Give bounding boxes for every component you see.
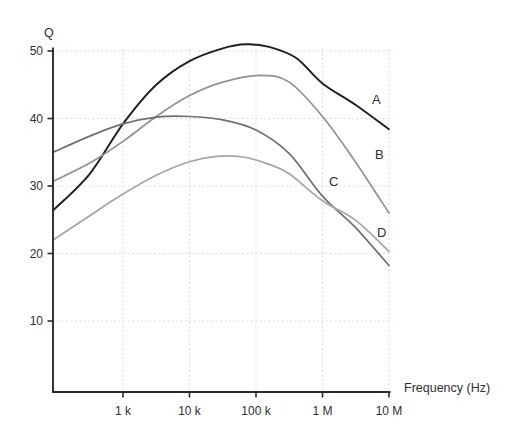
ytick-label-20: 20 bbox=[30, 247, 44, 261]
xtick-label-10k: 10 k bbox=[178, 404, 202, 418]
xtick-label-1k: 1 k bbox=[115, 404, 132, 418]
curve-label-A: A bbox=[372, 92, 381, 107]
ytick-label-50: 50 bbox=[30, 44, 44, 58]
curve-layer bbox=[53, 44, 389, 265]
axis-layer bbox=[48, 48, 391, 398]
curve-A bbox=[53, 44, 389, 210]
xtick-label-10M: 10 M bbox=[376, 404, 403, 418]
xtick-label-100k: 100 k bbox=[241, 404, 271, 418]
x-axis-title: Frequency (Hz) bbox=[404, 381, 490, 395]
curve-D bbox=[53, 156, 389, 252]
ytick-label-10: 10 bbox=[30, 314, 44, 328]
grid-layer bbox=[53, 49, 393, 391]
axis-lines bbox=[53, 48, 391, 393]
curve-B bbox=[53, 75, 389, 213]
chart-plot-area: 50 40 30 20 10 1 k 10 k 100 k 1 M 10 M Q… bbox=[0, 0, 509, 447]
curve-label-D: D bbox=[377, 225, 386, 240]
ytick-label-30: 30 bbox=[30, 179, 44, 193]
ytick-label-40: 40 bbox=[30, 112, 44, 126]
y-axis-title: Q bbox=[44, 26, 54, 40]
q-vs-frequency-chart: 50 40 30 20 10 1 k 10 k 100 k 1 M 10 M Q… bbox=[0, 0, 509, 447]
curve-label-C: C bbox=[329, 174, 338, 189]
curve-label-B: B bbox=[375, 147, 384, 162]
xtick-label-1M: 1 M bbox=[312, 404, 332, 418]
